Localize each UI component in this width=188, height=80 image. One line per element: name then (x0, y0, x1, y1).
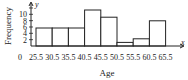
x-ticks-group: 025.530.535.540.545.550.555.560.565.5 (18, 53, 173, 62)
y-axis-label: Frequency (3, 7, 13, 45)
x-tick-label: 30.5 (45, 53, 59, 62)
bars-group (36, 10, 166, 46)
histogram-bar (117, 42, 133, 46)
histogram-chart: 246810 025.530.535.540.545.550.555.560.5… (0, 0, 188, 80)
x-axis-symbol: x (180, 38, 185, 47)
x-tick-label: 35.5 (61, 53, 75, 62)
histogram-bar (85, 10, 101, 46)
x-tick-label: 45.5 (94, 53, 108, 62)
histogram-bar (101, 17, 117, 46)
histogram-bar (52, 28, 68, 46)
histogram-bar (68, 28, 84, 46)
x-tick-label: 65.5 (159, 53, 173, 62)
histogram-bar (149, 21, 165, 46)
x-tick-label-origin: 0 (18, 53, 22, 62)
y-tick-label: 10 (19, 10, 27, 19)
histogram-bar (133, 39, 149, 46)
x-tick-label: 60.5 (142, 53, 156, 62)
x-axis-label: Age (100, 68, 115, 78)
x-tick-label: 50.5 (110, 53, 124, 62)
x-tick-label: 25.5 (29, 53, 43, 62)
histogram-bar (36, 28, 52, 46)
x-tick-label: 55.5 (126, 53, 140, 62)
histogram-svg: 246810 025.530.535.540.545.550.555.560.5… (0, 0, 188, 80)
x-tick-label: 40.5 (78, 53, 92, 62)
y-axis-symbol: y (34, 0, 39, 9)
